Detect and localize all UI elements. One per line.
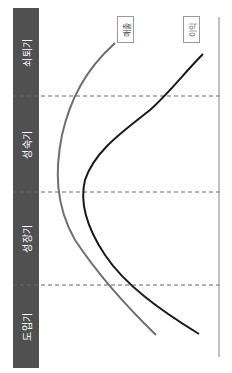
stage-dividers xyxy=(13,96,220,285)
sales-label: 매출 xyxy=(117,16,134,43)
profit-label-text: 이익 xyxy=(186,23,197,37)
sales-curve xyxy=(58,43,156,335)
profit-curve xyxy=(83,54,203,334)
sales-label-text: 매출 xyxy=(120,23,131,37)
plc-chart xyxy=(0,0,232,373)
profit-label: 이익 xyxy=(183,16,200,43)
